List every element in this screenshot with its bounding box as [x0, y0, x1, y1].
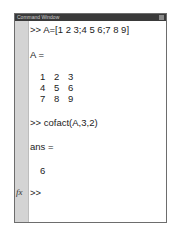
output-label: A =	[30, 49, 44, 60]
command-prompt[interactable]: >>	[30, 187, 41, 198]
matrix-row: 789	[40, 93, 82, 104]
command-window[interactable]: Command Window fx >> A=[1 2 3;4 5 6;7 8 …	[14, 13, 167, 223]
matrix-row: 456	[40, 82, 82, 93]
matrix-row: 123	[40, 71, 82, 82]
fx-icon[interactable]: fx	[16, 187, 23, 197]
window-menu-button[interactable]	[159, 15, 164, 20]
command-line: >> cofact(A,3,2)	[30, 117, 98, 128]
title-bar: Command Window	[15, 14, 166, 21]
gutter: fx	[15, 21, 29, 222]
window-title: Command Window	[17, 14, 59, 20]
output-value: 6	[40, 165, 45, 176]
command-line: >> A=[1 2 3;4 5 6;7 8 9]	[30, 24, 129, 35]
output-label: ans =	[30, 141, 54, 152]
